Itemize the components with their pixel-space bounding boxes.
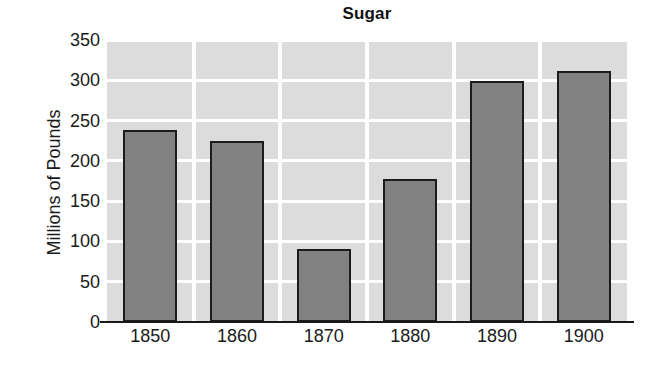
x-axis-line bbox=[100, 321, 634, 323]
y-axis-tick-labels: 050100150200250300350 bbox=[36, 40, 100, 322]
bar bbox=[557, 71, 611, 322]
bar bbox=[210, 141, 264, 322]
plot-area bbox=[107, 40, 627, 322]
x-axis-tick-label: 1850 bbox=[130, 326, 170, 347]
gridline-vertical bbox=[538, 40, 542, 322]
y-axis-tick-label: 200 bbox=[36, 152, 100, 170]
bar bbox=[470, 81, 524, 322]
chart-title: Sugar bbox=[107, 4, 627, 24]
x-axis-tick-label: 1890 bbox=[477, 326, 517, 347]
x-axis-tick-label: 1870 bbox=[304, 326, 344, 347]
gridline-vertical bbox=[192, 40, 196, 322]
bar bbox=[297, 249, 351, 322]
bar-chart: Sugar Millions of Pounds 050100150200250… bbox=[0, 0, 650, 372]
y-axis-tick-label: 250 bbox=[36, 112, 100, 130]
bar bbox=[123, 130, 177, 322]
x-axis-tick-label: 1860 bbox=[217, 326, 257, 347]
bar bbox=[383, 179, 437, 322]
x-axis-tick-label: 1880 bbox=[390, 326, 430, 347]
gridline-vertical bbox=[278, 40, 282, 322]
y-axis-tick-label: 0 bbox=[36, 313, 100, 331]
y-axis-tick-label: 50 bbox=[36, 273, 100, 291]
x-axis-tick-labels: 185018601870188018901900 bbox=[107, 326, 627, 360]
y-axis-tick-label: 300 bbox=[36, 71, 100, 89]
y-axis-tick-label: 350 bbox=[36, 31, 100, 49]
gridline-vertical bbox=[365, 40, 369, 322]
x-axis-tick-label: 1900 bbox=[564, 326, 604, 347]
y-axis-tick-label: 150 bbox=[36, 192, 100, 210]
gridline-vertical bbox=[452, 40, 456, 322]
y-axis-tick-label: 100 bbox=[36, 232, 100, 250]
